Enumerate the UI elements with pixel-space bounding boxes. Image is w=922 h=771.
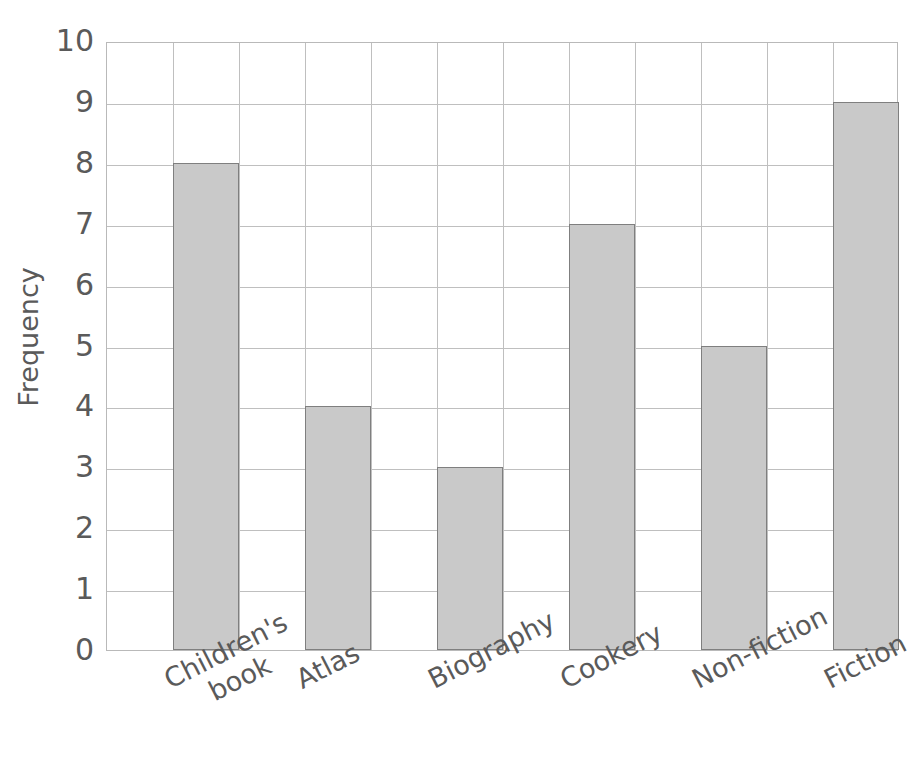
x-axis-tick-labels: Children'sbookAtlasBiographyCookeryNon-f… [0, 651, 922, 771]
y-tick-label: 2 [34, 513, 94, 543]
bar [569, 224, 635, 650]
bar [833, 102, 899, 650]
y-tick-label: 1 [34, 574, 94, 604]
gridline-vertical [239, 43, 240, 650]
gridline-vertical [635, 43, 636, 650]
y-tick-label: 7 [34, 209, 94, 239]
bar [305, 406, 371, 650]
gridline-horizontal [107, 104, 897, 105]
y-tick-label: 10 [34, 26, 94, 56]
gridline-vertical [767, 43, 768, 650]
bar-chart: Frequency 012345678910 Children'sbookAtl… [0, 0, 922, 771]
y-tick-label: 8 [34, 148, 94, 178]
gridline-vertical [503, 43, 504, 650]
y-tick-label: 5 [34, 331, 94, 361]
gridline-vertical [371, 43, 372, 650]
bar [437, 467, 503, 650]
y-tick-label: 9 [34, 87, 94, 117]
plot-area [106, 42, 898, 651]
bar [701, 346, 767, 651]
y-tick-label: 3 [34, 452, 94, 482]
y-tick-label: 6 [34, 270, 94, 300]
y-tick-label: 4 [34, 391, 94, 421]
bar [173, 163, 239, 650]
